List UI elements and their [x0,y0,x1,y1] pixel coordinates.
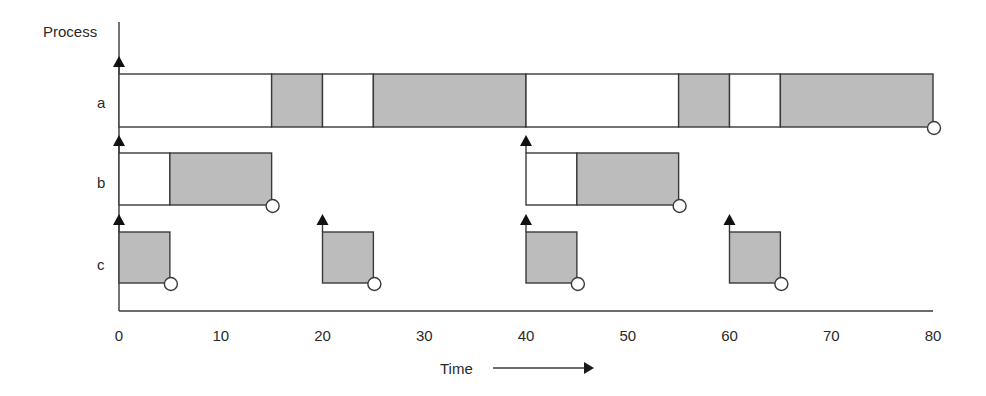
arrival-arrow-icon [317,214,329,232]
x-tick-label: 70 [823,327,840,344]
x-tick-label: 20 [314,327,331,344]
running-segment [170,153,272,205]
process-row-c: c [97,214,788,291]
arrival-arrow-icon [520,135,532,153]
arrival-arrow-icon [113,214,125,232]
y-axis-label: Process [43,23,97,40]
running-segment [526,232,577,283]
idle-segment [119,153,170,205]
idle-segment [730,74,781,127]
x-tick-label: 80 [925,327,942,344]
x-tick-label: 0 [115,327,123,344]
idle-segment [526,153,577,205]
process-label: c [97,256,105,273]
deadline-circle-icon [673,200,686,213]
process-row-b: b [97,135,686,213]
deadline-circle-icon [571,278,584,291]
arrival-arrow-icon [724,214,736,232]
deadline-circle-icon [368,278,381,291]
process-rows: abc [97,56,941,291]
x-tick-labels: 01020304050607080 [115,327,942,344]
running-segment [577,153,679,205]
running-segment [119,232,170,283]
running-segment [780,74,933,127]
deadline-circle-icon [775,278,788,291]
idle-segment [119,74,272,127]
running-segment [679,74,730,127]
running-segment [730,232,781,283]
running-segment [272,74,323,127]
running-segment [373,74,526,127]
process-timeline-diagram: Process abc 01020304050607080 Time [0,0,986,396]
deadline-circle-icon [928,122,941,135]
running-segment [323,232,374,283]
deadline-circle-icon [164,278,177,291]
x-tick-label: 10 [212,327,229,344]
x-axis-label: Time [440,360,473,377]
process-label: a [97,94,106,111]
arrival-arrow-icon [113,56,125,74]
arrival-arrow-icon [113,135,125,153]
x-tick-label: 30 [416,327,433,344]
deadline-circle-icon [266,200,279,213]
idle-segment [323,74,374,127]
idle-segment [526,74,679,127]
arrival-arrow-icon [520,214,532,232]
x-tick-label: 60 [721,327,738,344]
time-arrow-icon [493,362,594,374]
process-row-a: a [97,56,941,135]
x-tick-label: 50 [619,327,636,344]
process-label: b [97,174,105,191]
x-tick-label: 40 [518,327,535,344]
